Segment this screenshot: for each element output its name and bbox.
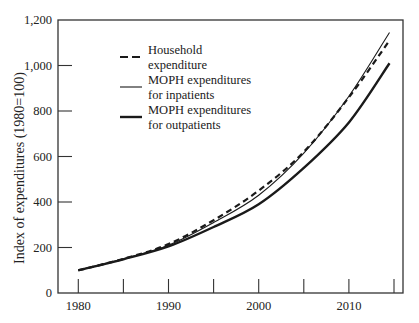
legend: HouseholdexpenditureMOPH expendituresfor… <box>120 43 251 132</box>
plot-border <box>58 20 403 293</box>
legend-label: MOPH expenditures <box>148 73 251 87</box>
series-line-2 <box>78 63 389 270</box>
y-tick-label: 200 <box>33 241 52 255</box>
y-tick-label: 400 <box>33 195 52 209</box>
y-tick-label: 800 <box>33 104 52 118</box>
y-axis: 02004006008001,0001,200 <box>24 13 72 300</box>
plot-frame <box>58 20 403 293</box>
series-line-1 <box>78 33 389 271</box>
x-axis: 1980199020002010 <box>66 279 394 313</box>
line-chart: 02004006008001,0001,200 1980199020002010… <box>0 0 419 323</box>
x-tick-label: 1980 <box>66 299 91 313</box>
y-tick-label: 1,200 <box>24 13 52 27</box>
x-tick-label: 2010 <box>336 299 361 313</box>
data-series <box>78 33 389 271</box>
legend-label: for outpatients <box>148 118 221 132</box>
y-axis-title: Index of expenditures (1980=100) <box>12 72 28 264</box>
legend-label: Household <box>148 43 203 57</box>
x-tick-label: 2000 <box>246 299 271 313</box>
y-tick-label: 600 <box>33 150 52 164</box>
legend-label: for inpatients <box>148 88 214 102</box>
y-tick-label: 0 <box>46 286 52 300</box>
legend-label: MOPH expenditures <box>148 103 251 117</box>
legend-label: expenditure <box>148 58 207 72</box>
x-tick-label: 1990 <box>156 299 181 313</box>
y-tick-label: 1,000 <box>24 59 52 73</box>
